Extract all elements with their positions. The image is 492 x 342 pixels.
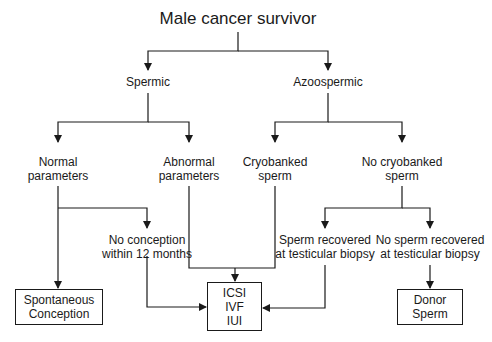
node-abnormal-line1: Abnormal: [159, 155, 220, 169]
node-no-cryobanked-line1: No cryobanked: [362, 155, 443, 169]
node-no-cryobanked-sperm: No cryobanked sperm: [362, 155, 443, 183]
node-no-cryobanked-line2: sperm: [362, 169, 443, 183]
node-cryobanked-sperm: Cryobanked sperm: [243, 155, 308, 183]
node-normal-line1: Normal: [28, 155, 89, 169]
outcome-icsi: ICSI: [223, 286, 246, 300]
outcome-spontaneous-line1: Spontaneous: [24, 293, 95, 307]
node-abnormal-parameters: Abnormal parameters: [159, 155, 220, 183]
node-normal-parameters: Normal parameters: [28, 155, 89, 183]
node-no-sperm-line1: No sperm recovered: [376, 233, 485, 247]
node-abnormal-line2: parameters: [159, 169, 220, 183]
node-azoospermic: Azoospermic: [293, 75, 362, 89]
node-no-conception-line2: within 12 months: [102, 247, 192, 261]
outcome-ivf: IVF: [225, 300, 244, 314]
outcome-donor-line2: Sperm: [412, 307, 447, 321]
outcome-art-box: ICSI IVF IUI: [207, 282, 262, 331]
node-cryobanked-line1: Cryobanked: [243, 155, 308, 169]
node-sperm-recovered-line1: Sperm recovered: [275, 233, 374, 247]
node-normal-line2: parameters: [28, 169, 89, 183]
outcome-iui: IUI: [227, 314, 242, 328]
outcome-spontaneous-line2: Conception: [29, 307, 90, 321]
node-no-sperm-recovered: No sperm recovered at testicular biopsy: [376, 233, 485, 261]
outcome-donor-sperm: Donor Sperm: [397, 289, 463, 325]
node-sperm-recovered: Sperm recovered at testicular biopsy: [275, 233, 374, 261]
node-no-sperm-line2: at testicular biopsy: [376, 247, 485, 261]
outcome-spontaneous-conception: Spontaneous Conception: [15, 289, 103, 325]
node-no-conception: No conception within 12 months: [102, 233, 192, 261]
outcome-donor-line1: Donor: [414, 293, 447, 307]
node-spermic: Spermic: [126, 75, 170, 89]
root-node-title: Male cancer survivor: [160, 9, 317, 29]
node-cryobanked-line2: sperm: [243, 169, 308, 183]
node-sperm-recovered-line2: at testicular biopsy: [275, 247, 374, 261]
node-no-conception-line1: No conception: [102, 233, 192, 247]
